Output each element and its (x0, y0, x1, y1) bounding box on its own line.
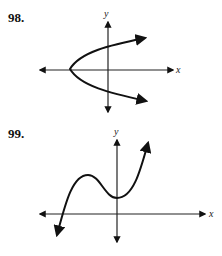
graph-98: x y (40, 8, 181, 112)
y-axis-label-98: y (103, 8, 109, 19)
graphs: x y x y (0, 0, 222, 256)
x-axis-label-99: x (208, 208, 214, 219)
graph-99: x y (40, 126, 214, 242)
y-axis-label-99: y (113, 126, 119, 137)
x-axis-label-98: x (175, 64, 181, 75)
cubic-curve (57, 143, 148, 235)
